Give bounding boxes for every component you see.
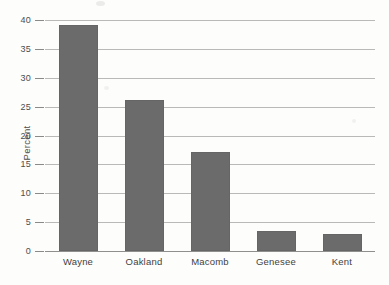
y-tick-mark — [35, 78, 44, 79]
y-tick-label: 15 — [21, 159, 31, 169]
bar[interactable] — [191, 152, 230, 251]
bar-slot — [243, 20, 309, 251]
y-tick-mark — [35, 107, 44, 108]
plot-area: 0510152025303540 — [45, 20, 375, 251]
bar[interactable] — [125, 100, 164, 251]
y-tick-label: 5 — [26, 217, 31, 227]
bar[interactable] — [257, 231, 296, 251]
bar-slot — [111, 20, 177, 251]
x-tick-label: Kent — [309, 256, 375, 267]
y-tick-label: 20 — [21, 131, 31, 141]
x-tick-label: Wayne — [45, 256, 111, 267]
x-tick-label: Genesee — [243, 256, 309, 267]
bar[interactable] — [323, 234, 362, 251]
bars-group — [45, 20, 375, 251]
bar-slot — [45, 20, 111, 251]
x-tick-label: Oakland — [111, 256, 177, 267]
y-tick-mark — [35, 136, 44, 137]
y-tick-mark — [35, 164, 44, 165]
y-tick-mark — [35, 251, 44, 252]
y-tick-mark — [35, 49, 44, 50]
y-tick-label: 35 — [21, 44, 31, 54]
y-tick-mark — [35, 193, 44, 194]
x-axis-labels: WayneOaklandMacombGeneseeKent — [45, 256, 375, 267]
bar[interactable] — [59, 25, 98, 251]
y-tick-label: 0 — [26, 246, 31, 256]
y-tick-label: 30 — [21, 73, 31, 83]
gridline — [45, 251, 375, 252]
y-tick-label: 25 — [21, 102, 31, 112]
bar-slot — [309, 20, 375, 251]
y-tick-label: 40 — [21, 15, 31, 25]
y-tick-mark — [35, 20, 44, 21]
x-tick-label: Macomb — [177, 256, 243, 267]
bar-chart: Percent 0510152025303540 WayneOaklandMac… — [0, 0, 389, 285]
scan-artifact-icon — [96, 1, 105, 6]
y-tick-mark — [35, 222, 44, 223]
bar-slot — [177, 20, 243, 251]
y-tick-label: 10 — [21, 188, 31, 198]
